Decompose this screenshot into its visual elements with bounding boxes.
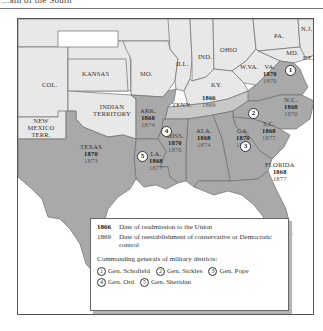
map-legend: 1866 Date of readmission to the Union 18…	[90, 218, 289, 311]
label-indian-territory: INDIAN TERRITORY	[90, 103, 134, 117]
district-number-icon: 2	[156, 267, 165, 276]
district-number-icon: 4	[97, 278, 106, 287]
label-de: DE.	[303, 54, 314, 61]
label-ill: ILL.	[176, 60, 189, 67]
label-tenn: TENN. 1866 1869	[202, 94, 216, 108]
label-sc: S.C. 1868 1877	[262, 120, 276, 141]
page-header-title: ...ath of the South	[2, 0, 72, 5]
label-kansas: KANSAS	[82, 70, 109, 77]
district-number-icon: 1	[97, 267, 106, 276]
legend-general: 3 Gen. Pope	[208, 266, 248, 276]
legend-control-desc: Date of reestablishment of conservative …	[119, 233, 282, 249]
label-md: MD.	[286, 49, 299, 56]
legend-generals-title: Commanding generals of military district…	[97, 255, 282, 263]
header-rule	[0, 8, 323, 9]
legend-general: 5 Gen. Sheridan	[140, 277, 191, 287]
legend-general: 4 Gen. Ord	[97, 277, 134, 287]
legend-general: 1 Gen. Schofield	[97, 266, 150, 276]
district-badge-5: 5	[137, 151, 148, 162]
district-badge-4: 4	[161, 126, 172, 137]
legend-generals-row-1: 1 Gen. Schofield 2 Gen. Sickles 3 Gen. P…	[97, 266, 282, 276]
label-ala: ALA. 1868 1874	[196, 127, 212, 148]
label-fla: FLORIDA 1868 1877	[265, 161, 295, 182]
label-texas: TEXAS 1870 1873	[80, 143, 102, 164]
label-pa: PA.	[274, 32, 284, 39]
district-badge-2: 2	[248, 108, 259, 119]
district-number-icon: 3	[208, 267, 217, 276]
label-ark: ARK. 1868 1874	[140, 107, 156, 128]
label-la: LA. 1868 1877	[149, 150, 163, 171]
label-wva: W.VA.	[240, 63, 258, 70]
legend-generals-row-2: 4 Gen. Ord 5 Gen. Sheridan	[97, 277, 282, 287]
region-ind	[190, 19, 214, 81]
district-badge-1: 1	[285, 65, 296, 76]
label-ind: IND.	[198, 53, 212, 60]
label-ohio: OHIO	[220, 46, 237, 53]
district-badge-3: 3	[240, 141, 251, 152]
legend-readmission-row: 1866 Date of readmission to the Union	[97, 223, 282, 231]
label-new-mexico: NEW MEXICO TERR.	[22, 117, 60, 138]
label-ky: KY.	[211, 81, 222, 88]
legend-readmission-desc: Date of readmission to the Union	[119, 223, 282, 231]
legend-general: 2 Gen. Sickles	[156, 266, 202, 276]
page-header: ...ath of the South	[0, 0, 323, 8]
label-va: VA. 1870 1870	[263, 63, 277, 84]
label-mo: MO.	[140, 70, 153, 77]
legend-control-key: 1869	[97, 233, 119, 249]
label-nc: N.C. 1868 1870	[284, 96, 298, 117]
region-mo	[123, 41, 178, 97]
label-col: COL.	[42, 81, 57, 88]
label-nj: N.J.	[301, 25, 312, 32]
legend-readmission-key: 1866	[97, 223, 119, 231]
district-number-icon: 5	[140, 278, 149, 287]
legend-control-row: 1869 Date of reestablishment of conserva…	[97, 233, 282, 249]
